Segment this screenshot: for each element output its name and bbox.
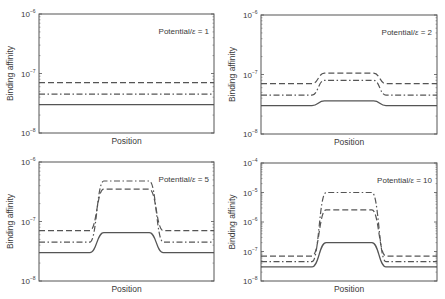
y-tick-label: 10−6 — [243, 216, 258, 227]
panel-potential-1: 10−810−710−6PositionBinding affinityPote… — [5, 8, 214, 146]
series-dashed — [39, 189, 214, 231]
y-tick-label: 10−5 — [243, 187, 258, 198]
x-axis-label: Position — [334, 284, 365, 294]
y-tick-label: 10−4 — [243, 157, 258, 168]
y-axis-label: Binding affinity — [5, 45, 15, 101]
y-tick-label: 10−6 — [21, 156, 36, 167]
y-tick-label: 10−7 — [21, 216, 36, 227]
series-dashed — [261, 210, 437, 256]
y-tick-label: 10−8 — [243, 128, 258, 139]
y-tick-label: 10−8 — [243, 275, 258, 286]
y-tick-label: 10−6 — [243, 9, 258, 20]
y-tick-label: 10−8 — [21, 127, 36, 138]
panel-potential-5: 10−810−710−6PositionBinding affinityPote… — [5, 156, 214, 294]
y-tick-label: 10−7 — [243, 246, 258, 257]
series-solid — [261, 243, 437, 267]
y-tick-label: 10−8 — [21, 275, 36, 286]
y-tick-label: 10−7 — [243, 69, 258, 80]
potential-annotation: Potential/ε = 5 — [159, 175, 210, 184]
potential-annotation: Potential/ε = 2 — [382, 28, 433, 37]
y-axis-label: Binding affinity — [227, 46, 237, 102]
series-solid — [261, 101, 437, 106]
series-dashed — [261, 73, 437, 84]
x-axis-label: Position — [111, 136, 142, 146]
y-axis-label: Binding affinity — [5, 193, 15, 249]
series-dash-dot — [261, 80, 437, 95]
y-axis-label: Binding affinity — [227, 194, 237, 250]
series-dash-dot — [261, 193, 437, 262]
figure-canvas: 10−810−710−6PositionBinding affinityPote… — [0, 0, 445, 299]
x-axis-label: Position — [334, 137, 365, 147]
y-tick-label: 10−6 — [21, 8, 36, 19]
y-tick-label: 10−7 — [21, 68, 36, 79]
potential-annotation: Potential/ε = 10 — [377, 176, 432, 185]
x-axis-label: Position — [111, 284, 142, 294]
panel-potential-10: 10−810−710−610−510−4PositionBinding affi… — [227, 157, 437, 294]
potential-annotation: Potential/ε = 1 — [159, 27, 210, 36]
figure: 10−810−710−6PositionBinding affinityPote… — [0, 0, 445, 299]
panel-potential-2: 10−810−710−6PositionBinding affinityPote… — [227, 9, 437, 147]
